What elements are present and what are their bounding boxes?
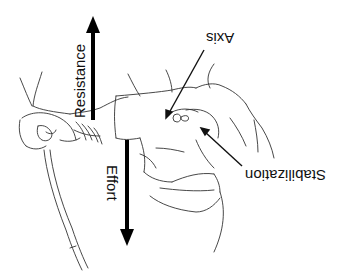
effort-arrowhead-icon [120, 229, 134, 246]
resistance-label: Resistance [71, 44, 88, 118]
effort-label: Effort [104, 165, 121, 201]
stabilization-pointer-line [205, 132, 242, 166]
line-drawing [19, 64, 274, 270]
pointer-lines [166, 50, 242, 166]
stabilization-label: Stabilization [245, 167, 326, 184]
illustration-svg [0, 0, 347, 276]
axis-label: Axis [206, 30, 234, 47]
resistance-arrowhead-icon [86, 16, 100, 33]
axis-pointer-line [169, 50, 204, 113]
axis-pointer-arrowhead-icon [166, 110, 172, 118]
diagram-canvas: Resistance Effort Axis Stabilization [0, 0, 347, 276]
force-arrows [86, 16, 134, 246]
